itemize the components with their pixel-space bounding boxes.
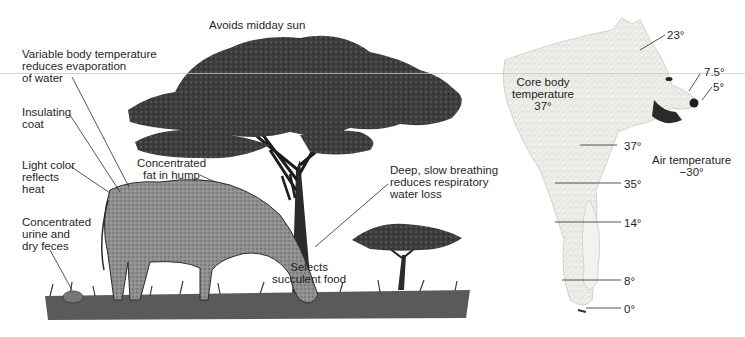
temp-nose: 5°: [713, 81, 724, 93]
temp-paw: 0°: [624, 303, 635, 315]
label-insulating-coat: Insulating coat: [22, 106, 71, 130]
label-avoids-midday-sun: Avoids midday sun: [209, 19, 305, 31]
temp-chest: 37°: [624, 140, 641, 152]
temp-lower-leg: 8°: [624, 275, 635, 287]
temp-upper-leg: 35°: [624, 178, 641, 190]
acacia-tree-small: [352, 224, 462, 290]
adaptation-figure: Avoids midday sun Variable body temperat…: [0, 0, 745, 337]
label-variable-body-temperature: Variable body temperature reduces evapor…: [22, 48, 157, 84]
label-light-color: Light color reflects heat: [22, 159, 75, 195]
grass-ground: [45, 279, 470, 320]
label-air-temperature: Air temperature −30°: [652, 154, 731, 178]
label-concentrated-urine: Concentrated urine and dry feces: [22, 216, 91, 252]
label-selects-succulent-food: Selects succulent food: [272, 261, 346, 285]
label-concentrated-fat: Concentrated fat in hump: [137, 157, 206, 181]
temp-muzzle: 7.5°: [704, 66, 725, 78]
label-core-body-temperature: Core body temperature 37°: [512, 76, 574, 112]
label-deep-slow-breathing: Deep, slow breathing reduces respiratory…: [390, 164, 498, 200]
temp-head: 23°: [667, 29, 684, 41]
temp-mid-leg: 14°: [624, 217, 641, 229]
